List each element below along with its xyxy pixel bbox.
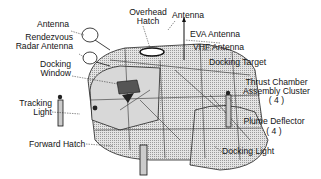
label-docking-target: Docking Target	[209, 58, 266, 68]
overhead-hatch-shape	[140, 48, 164, 56]
label-eva-antenna: EVA Antenna	[190, 30, 240, 40]
label-antenna-top: Antenna	[172, 11, 204, 21]
label-overhead-hatch-2: Hatch	[123, 17, 173, 27]
label-docking-light: Docking Light	[222, 147, 274, 157]
label-rendezvous-2: Radar Antenna	[10, 42, 73, 52]
rendezvous-radar-dish	[83, 52, 97, 64]
label-plume-count: ( 4 )	[234, 127, 314, 137]
label-thrust-count: ( 4 )	[234, 96, 319, 106]
label-forward-hatch: Forward Hatch	[29, 140, 85, 150]
antenna-dish	[82, 28, 98, 42]
label-antenna-left: Antenna	[20, 20, 69, 30]
label-tracking-2: Light	[10, 108, 52, 118]
label-docking-window-2: Window	[20, 69, 71, 79]
label-vhf-antenna: VHF Antenna	[193, 43, 244, 53]
